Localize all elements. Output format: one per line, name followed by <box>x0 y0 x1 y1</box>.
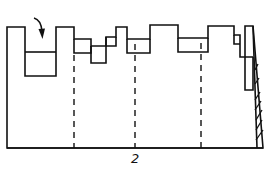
step-box-4 <box>127 39 150 53</box>
profile-outline <box>7 25 263 148</box>
diagram-canvas <box>0 0 277 174</box>
step-box-5 <box>178 38 208 52</box>
step-box-3 <box>106 37 116 46</box>
step-box-6 <box>234 35 240 44</box>
curved-arrow-icon <box>34 18 45 39</box>
step-box-1 <box>74 39 91 53</box>
diagram-label: 2 <box>131 152 139 165</box>
step-box-2 <box>91 46 106 63</box>
step-box-7 <box>245 57 253 90</box>
dashed-lines <box>74 43 201 148</box>
